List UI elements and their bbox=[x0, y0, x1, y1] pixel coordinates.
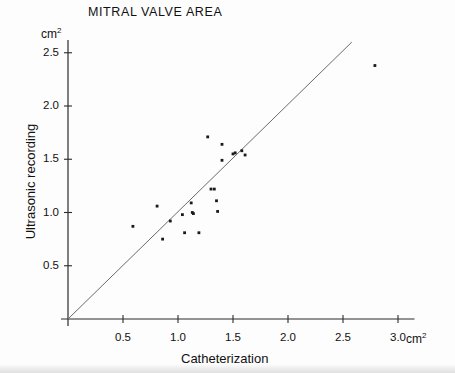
reference-line-group bbox=[68, 42, 352, 319]
data-point bbox=[156, 205, 159, 208]
y-tick-label-2.0: 2.0 bbox=[29, 100, 59, 112]
data-point bbox=[198, 231, 201, 234]
data-points-group bbox=[132, 64, 377, 240]
data-point bbox=[190, 202, 193, 205]
x-tick-label-1.5: 1.5 bbox=[218, 332, 248, 344]
data-point bbox=[216, 210, 219, 213]
x-tick-label-2.0: 2.0 bbox=[273, 332, 303, 344]
x-tick-label-0.5: 0.5 bbox=[108, 332, 138, 344]
x-tick-label-2.5: 2.5 bbox=[328, 332, 358, 344]
data-point bbox=[234, 151, 237, 154]
x-tick-label-1.0: 1.0 bbox=[163, 332, 193, 344]
data-point bbox=[221, 143, 224, 146]
data-point bbox=[215, 199, 218, 202]
y-tick-label-1.5: 1.5 bbox=[29, 153, 59, 165]
data-point bbox=[183, 231, 186, 234]
y-tick-label-2.5: 2.5 bbox=[29, 47, 59, 59]
mitral-valve-area-chart: MITRAL VALVE AREA cm2 cm2 Catheterizatio… bbox=[0, 0, 455, 373]
data-point bbox=[240, 149, 243, 152]
axes-group bbox=[61, 40, 415, 326]
data-point bbox=[169, 220, 172, 223]
y-tick-label-1.0: 1.0 bbox=[29, 207, 59, 219]
data-point bbox=[221, 159, 224, 162]
data-point bbox=[374, 64, 377, 67]
plot-area bbox=[0, 0, 455, 373]
data-point bbox=[206, 135, 209, 138]
data-point bbox=[161, 238, 164, 241]
x-tick-label-3.0: 3.0 bbox=[383, 332, 413, 344]
y-tick-label-0.5: 0.5 bbox=[29, 260, 59, 272]
page-edge-shadow bbox=[0, 364, 455, 373]
tick-marks-group bbox=[64, 53, 398, 323]
data-point bbox=[181, 213, 184, 216]
data-point bbox=[192, 212, 195, 215]
identity-reference-line bbox=[68, 42, 352, 319]
data-point bbox=[132, 225, 135, 228]
data-point bbox=[244, 154, 247, 157]
data-point bbox=[213, 188, 216, 191]
data-point bbox=[210, 188, 213, 191]
